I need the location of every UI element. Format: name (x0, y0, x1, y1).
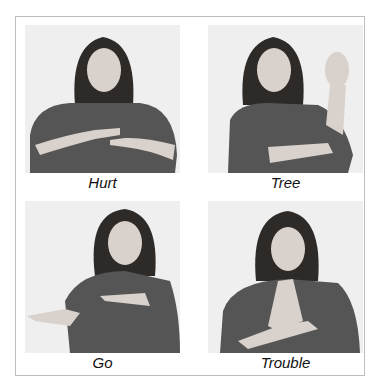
person-signing-trouble-illustration (208, 201, 363, 353)
photo-tree (208, 25, 363, 173)
photo-trouble (208, 201, 363, 353)
caption-go: Go (25, 354, 180, 371)
person-signing-tree-illustration (208, 25, 363, 173)
person-signing-go-illustration (25, 201, 180, 353)
photo-go (25, 201, 180, 353)
person-signing-hurt-illustration (25, 25, 180, 173)
photo-hurt (25, 25, 180, 173)
caption-hurt: Hurt (25, 174, 180, 191)
figure-frame: Hurt Tree (15, 16, 365, 376)
caption-tree: Tree (208, 174, 363, 191)
caption-trouble: Trouble (208, 354, 363, 371)
